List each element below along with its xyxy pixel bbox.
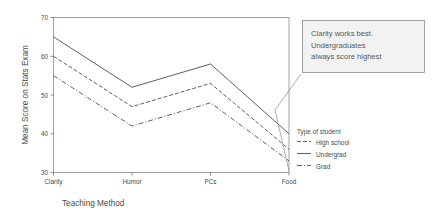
y-tick-marks xyxy=(51,18,54,173)
legend-label-grad[interactable]: Grad xyxy=(316,163,331,170)
legend-label-high-school[interactable]: High school xyxy=(316,139,349,147)
x-tick-label-pcs: PCs xyxy=(204,178,216,185)
callout-line-1: Clarity works best. xyxy=(311,29,373,38)
legend: Type of student High school Undergrad Gr… xyxy=(297,128,349,170)
chart-container: 70 60 50 40 30 Mean Score on Stats Exam … xyxy=(0,0,436,219)
series-group xyxy=(54,37,290,161)
y-axis-title: Mean Score on Stats Exam xyxy=(21,45,30,145)
x-tick-label-humor: Humor xyxy=(122,178,142,185)
x-tick-label-clarity: Clarity xyxy=(44,178,63,186)
x-tick-label-food: Food xyxy=(282,178,297,185)
callout-leader-line xyxy=(275,74,301,171)
y-tick-label: 50 xyxy=(41,92,49,99)
x-tick-labels: Clarity Humor PCs Food xyxy=(44,178,296,186)
y-tick-labels: 70 60 50 40 30 xyxy=(41,14,49,176)
y-tick-label: 40 xyxy=(41,130,49,137)
series-line-grad xyxy=(54,76,290,161)
legend-label-undergrad[interactable]: Undergrad xyxy=(316,151,347,159)
x-tick-marks xyxy=(54,173,290,176)
legend-title: Type of student xyxy=(297,128,341,136)
x-axis-title: Teaching Method xyxy=(62,199,125,208)
y-tick-label: 30 xyxy=(41,169,49,176)
callout-line-3: always score highest xyxy=(311,52,382,61)
y-tick-label: 70 xyxy=(41,14,49,21)
callout-line-2: Undergraduates xyxy=(311,41,366,50)
line-chart: 70 60 50 40 30 Mean Score on Stats Exam … xyxy=(0,0,436,219)
y-tick-label: 60 xyxy=(41,53,49,60)
